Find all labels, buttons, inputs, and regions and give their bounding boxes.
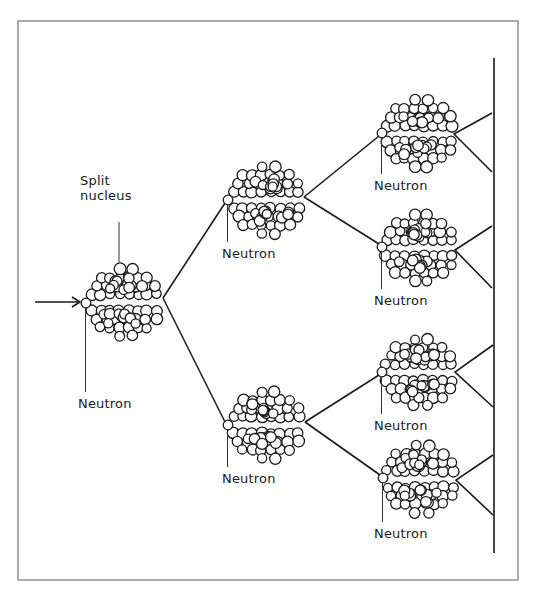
nucleon bbox=[293, 179, 302, 188]
nucleon bbox=[411, 440, 421, 450]
nucleon bbox=[284, 169, 294, 179]
nucleon bbox=[428, 268, 438, 278]
nucleon bbox=[422, 334, 434, 346]
nucleon bbox=[127, 330, 137, 340]
nucleon bbox=[447, 251, 457, 261]
nucleon bbox=[293, 187, 303, 197]
nucleon bbox=[417, 381, 426, 390]
nucleus-bottom-half bbox=[380, 250, 457, 287]
neutron-label: Neutron bbox=[374, 178, 428, 193]
nucleus-bottom-half bbox=[383, 481, 458, 518]
nucleon bbox=[257, 162, 266, 171]
nucleon bbox=[438, 393, 448, 403]
neutron-label: Neutron bbox=[374, 418, 428, 433]
nucleon bbox=[410, 275, 421, 286]
nucleus-top-half bbox=[229, 161, 303, 198]
split-nucleus: Neutron bbox=[374, 94, 458, 193]
nucleon bbox=[429, 379, 439, 389]
nucleon bbox=[415, 485, 425, 495]
neutron-label: Neutron bbox=[222, 471, 276, 486]
nucleon bbox=[407, 255, 418, 266]
neutron-particle bbox=[377, 242, 387, 252]
nucleon bbox=[415, 460, 424, 469]
nucleon bbox=[445, 383, 456, 394]
split-nucleus: Neutron bbox=[374, 334, 457, 434]
branch-line bbox=[163, 298, 225, 422]
nucleon bbox=[124, 282, 135, 293]
nucleon bbox=[394, 257, 404, 267]
neutron-label: Neutron bbox=[222, 246, 276, 261]
neutron-label: Neutron bbox=[374, 293, 428, 308]
bracket bbox=[454, 113, 492, 172]
nucleon bbox=[282, 179, 292, 189]
neutron-particle bbox=[81, 298, 91, 308]
nucleon bbox=[284, 445, 294, 455]
nucleus-bottom-half bbox=[229, 202, 305, 239]
neutron-label: Neutron bbox=[374, 526, 428, 541]
nucleon bbox=[410, 94, 421, 105]
nucleus-top-half bbox=[381, 94, 458, 132]
split-nucleus: Neutron bbox=[222, 386, 305, 486]
split-nucleus: Neutron bbox=[374, 440, 459, 541]
nucleus-bottom-half bbox=[227, 427, 304, 464]
nucleon bbox=[104, 319, 113, 328]
nucleon bbox=[400, 349, 410, 359]
nucleus-bottom-half bbox=[86, 305, 162, 341]
nucleon bbox=[399, 112, 408, 121]
branch-line bbox=[163, 203, 225, 298]
nuclei-group: NeutronNeutronNeutronNeutronNeutronNeutr… bbox=[78, 94, 459, 541]
nucleus-bottom-half bbox=[381, 136, 456, 173]
fission-diagram: NeutronNeutronNeutronNeutronNeutronNeutr… bbox=[0, 0, 540, 593]
neutron-label: Neutron bbox=[78, 396, 132, 411]
nucleon bbox=[283, 209, 293, 219]
nucleon bbox=[115, 331, 125, 341]
nucleon bbox=[421, 219, 431, 229]
nucleon bbox=[447, 261, 456, 270]
nucleus-top-half bbox=[380, 334, 456, 370]
nucleon bbox=[417, 117, 428, 128]
nucleon bbox=[257, 229, 266, 238]
nucleon bbox=[409, 229, 419, 239]
neutron-particle bbox=[223, 420, 233, 430]
nucleon bbox=[411, 353, 422, 364]
nucleon bbox=[114, 263, 126, 275]
nucleon bbox=[411, 335, 420, 344]
end-brackets bbox=[454, 113, 493, 515]
nucleon bbox=[438, 449, 449, 460]
branch-line bbox=[304, 136, 379, 197]
split-nucleus-label: Split nucleus bbox=[80, 173, 132, 262]
neutron-particle bbox=[378, 473, 388, 483]
split-label-line1: Split bbox=[80, 173, 110, 188]
nucleus-top-half bbox=[382, 209, 456, 246]
nucleon bbox=[258, 454, 267, 463]
nucleon bbox=[408, 116, 418, 126]
incoming-neutron-arrow bbox=[35, 297, 80, 307]
branch-line bbox=[305, 422, 380, 475]
nucleon bbox=[238, 445, 247, 454]
nucleon bbox=[137, 281, 148, 292]
branch-line bbox=[305, 375, 379, 422]
nucleon bbox=[407, 386, 417, 396]
nucleon bbox=[438, 267, 449, 278]
nucleon bbox=[448, 491, 457, 500]
nucleon bbox=[447, 458, 456, 467]
nucleon bbox=[409, 161, 421, 173]
bracket bbox=[456, 455, 493, 515]
nucleus-top-half bbox=[86, 263, 161, 301]
nucleon bbox=[268, 386, 279, 397]
nucleon bbox=[258, 405, 268, 415]
nucleon bbox=[131, 319, 140, 328]
nucleon bbox=[257, 438, 268, 449]
nucleon bbox=[424, 508, 434, 518]
bracket bbox=[455, 226, 492, 288]
nucleon bbox=[421, 161, 433, 173]
nucleon bbox=[270, 229, 281, 240]
nucleon bbox=[438, 499, 447, 508]
nucleon bbox=[423, 400, 433, 410]
nucleon bbox=[269, 409, 278, 418]
nucleon bbox=[436, 218, 446, 228]
neutron-particle bbox=[223, 195, 233, 205]
nucleon bbox=[270, 161, 281, 172]
nucleon bbox=[413, 140, 424, 151]
nucleon bbox=[438, 103, 449, 114]
